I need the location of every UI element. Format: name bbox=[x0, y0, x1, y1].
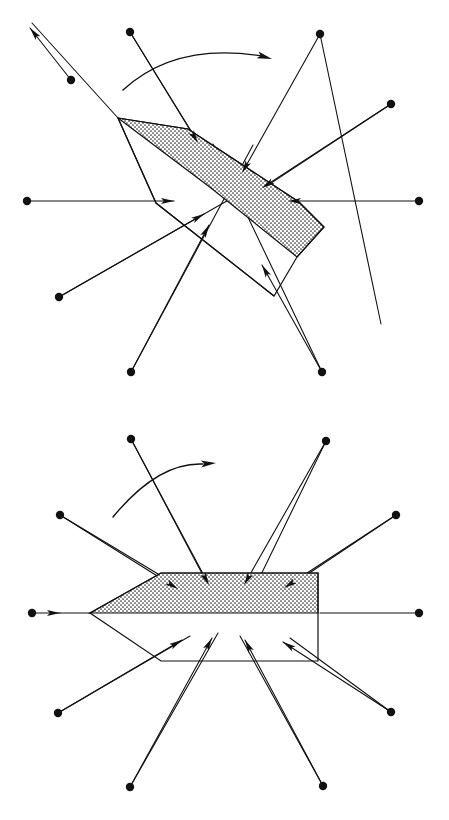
ray-arrowhead-b-r8 bbox=[203, 638, 212, 651]
ray-endpoint-dot-b-r9 bbox=[319, 782, 327, 790]
figure-root bbox=[0, 0, 449, 820]
ray-segment bbox=[32, 23, 118, 118]
ray-line-b-r7 bbox=[58, 640, 182, 713]
ray-endpoint-dot-b-r2 bbox=[322, 437, 330, 445]
ray-line-t-r4 bbox=[262, 104, 391, 188]
ray-endpoint-dot-t-r3 bbox=[67, 76, 75, 84]
ray-segment bbox=[320, 34, 381, 324]
ray-endpoint-dot-b-r3 bbox=[56, 511, 64, 519]
ray-endpoint-dot-t-r7 bbox=[55, 293, 63, 301]
ray-line-b-r10 bbox=[283, 642, 391, 712]
ray-endpoint-dot-b-r10 bbox=[387, 708, 395, 716]
ray-arrowhead-t-r7 bbox=[191, 214, 204, 223]
ray-line-b-r9 bbox=[245, 640, 323, 786]
ray-arrowhead-b-r7 bbox=[169, 640, 182, 649]
rotation-diagram bbox=[0, 0, 449, 820]
ray-endpoint-dot-t-r9 bbox=[318, 368, 326, 376]
ray-line-b-r1 bbox=[131, 439, 209, 585]
ray-endpoint-dot-b-r8 bbox=[126, 783, 134, 791]
rotation-arc-top bbox=[123, 53, 262, 90]
ray-line-t-r8 bbox=[131, 225, 209, 372]
ray-endpoint-dot-t-r4 bbox=[387, 100, 395, 108]
ray-endpoint-dot-t-r6 bbox=[415, 197, 423, 205]
ray-endpoint-dot-b-r7 bbox=[54, 709, 62, 717]
ray-endpoint-dot-b-r1 bbox=[127, 435, 135, 443]
ray-arrowhead-b-r10 bbox=[283, 642, 296, 652]
ray-line-b-r2 bbox=[244, 441, 326, 585]
ray-endpoint-dot-b-r4 bbox=[392, 511, 400, 519]
ray-endpoint-dot-t-r1 bbox=[126, 28, 134, 36]
ray-endpoint-dot-b-r5 bbox=[28, 609, 36, 617]
ray-endpoint-dot-t-r2 bbox=[316, 30, 324, 38]
ray-line-b-r8 bbox=[130, 638, 212, 787]
panel-rotated-pose bbox=[23, 23, 423, 376]
ray-arrowhead-t-r9 bbox=[262, 265, 271, 278]
ray-endpoint-dot-t-r8 bbox=[127, 368, 135, 376]
ray-endpoint-dot-t-r5 bbox=[23, 197, 31, 205]
ray-line-t-r7 bbox=[59, 214, 204, 297]
panel-canonical-pose bbox=[28, 435, 423, 791]
ray-endpoint-dot-b-r6 bbox=[415, 609, 423, 617]
ray-line-t-r9 bbox=[262, 265, 322, 372]
ray-segment bbox=[290, 638, 391, 712]
ray-segment bbox=[252, 441, 326, 593]
